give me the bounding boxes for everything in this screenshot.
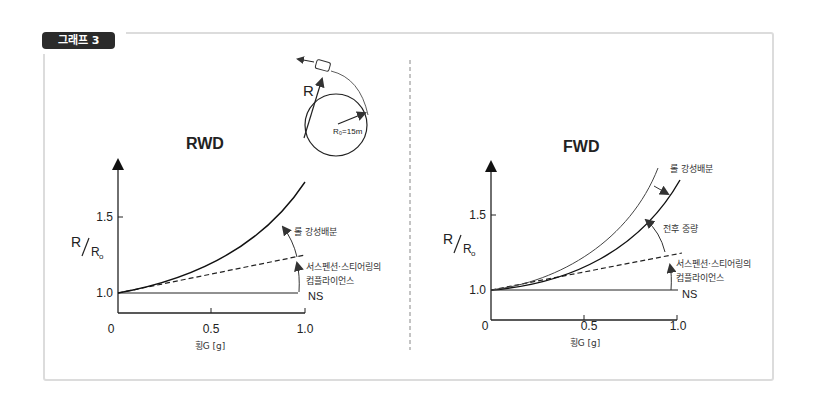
y-axis-arrow-icon [485,160,497,172]
y-tick-15: 1.5 [469,208,486,222]
x-tick-10: 1.0 [297,322,314,336]
ann-ns: NS [308,290,323,302]
r0-radius-arrow [338,113,365,124]
ann-roll: 롤 강성배분 [294,227,337,237]
ann-compliance-1: 서스펜션·스티어링의 [306,261,381,272]
y-tick-10: 1.0 [96,286,113,300]
roll-arrow-icon [654,186,668,194]
ann-roll: 롤 강성배분 [670,164,713,174]
heading-arrow [298,59,314,62]
x-tick-0: 0 [482,319,489,333]
rwd-chart: RWD 0 0.5 1.0 횡G [g] 1.5 1.0 R R o 롤 강성배… [71,135,381,351]
figure-badge: 그래프 3 [42,32,115,49]
ann-compliance-2: 컴플라이언스 [676,272,724,283]
ann-ns: NS [682,288,697,300]
r-label: R [303,82,314,99]
roll-curve [118,182,305,293]
y-label-o: o [99,252,104,261]
x-tick-10: 1.0 [670,319,687,333]
vehicle-icon [315,59,331,71]
turning-diagram: R R₀=15m [298,59,368,156]
rwd-title: RWD [186,135,224,152]
ann-weight: 전후 중량 [663,223,698,234]
compliance-arrow-icon [670,265,671,290]
x-axis-label: 횡G [g] [570,337,601,348]
y-tick-10: 1.0 [469,283,486,297]
charts-canvas: R R₀=15m RWD 0 0.5 1.0 횡G [g] 1.5 1.0 R … [0,0,814,398]
weight-curve [491,180,680,290]
fwd-chart: FWD 0 0.5 1.0 횡G [g] 1.5 1.0 R R o 롤 강성배… [443,138,751,348]
r0-label: R₀=15m [333,127,363,136]
y-label-o: o [471,249,476,258]
x-tick-0: 0 [108,322,115,336]
y-label-r: R [71,234,81,250]
x-axis-label: 횡G [g] [195,340,226,351]
y-tick-15: 1.5 [96,210,113,224]
fwd-title: FWD [563,138,599,155]
compliance-arrow-icon [297,263,299,292]
ann-compliance-1: 서스펜션·스티어링의 [676,258,751,269]
y-label-r: R [443,231,453,247]
ann-compliance-2: 컴플라이언스 [306,275,354,286]
x-tick-05: 0.5 [203,322,220,336]
x-tick-05: 0.5 [581,319,598,333]
y-axis-arrow-icon [112,158,124,170]
